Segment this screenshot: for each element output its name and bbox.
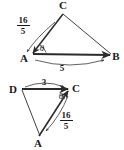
magnitude-AC-denominator-bottom: 5 (64, 121, 69, 131)
vertex-label-A-top: A (20, 52, 28, 64)
magnitude-AC-fraction-top: 16 5 (17, 15, 30, 36)
vertex-label-A-bottom: A (34, 137, 42, 149)
theta-label-top: θ (40, 43, 45, 53)
arc-magnitude-AB (35, 60, 104, 65)
vertex-label-B-top: B (112, 50, 120, 62)
vector-A-to-B (33, 54, 110, 55)
segment-DA (22, 90, 40, 136)
magnitude-AC-fraction-bottom: 16 5 (60, 110, 73, 131)
vertex-label-D-bottom: D (9, 83, 17, 95)
magnitude-AC-numerator-bottom: 16 (62, 110, 72, 120)
geometry-figure-canvas: θ C A B 16 5 5 θ D C A 3 (0, 0, 124, 150)
magnitude-AB-label-top: 5 (60, 63, 65, 73)
top-triangle-group: θ C A B 16 5 5 (17, 0, 120, 73)
magnitude-AC-denominator-top: 5 (21, 26, 26, 36)
vector-C-to-A (33, 14, 63, 53)
magnitude-AC-numerator-top: 16 (19, 15, 29, 25)
vertex-label-C-top: C (59, 0, 67, 11)
vertex-label-C-bottom: C (72, 82, 80, 94)
magnitude-DC-label-bottom: 3 (42, 77, 47, 87)
segment-CB (63, 14, 111, 54)
bottom-triangle-group: θ D C A 3 16 5 (9, 77, 80, 149)
theta-label-bottom: θ (59, 91, 64, 101)
